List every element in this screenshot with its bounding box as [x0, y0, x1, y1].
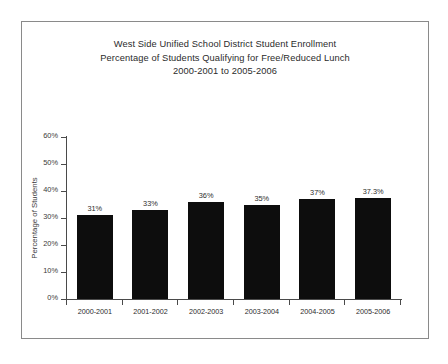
x-tick — [233, 299, 234, 305]
y-tick-label: 50% — [43, 158, 58, 167]
plot-area: 31%33%36%35%37%37.3% — [67, 137, 401, 299]
bar[interactable] — [77, 215, 113, 299]
bar[interactable] — [132, 210, 168, 299]
bar[interactable] — [355, 198, 391, 299]
y-tick-label: 10% — [43, 266, 58, 275]
y-axis-title: Percentage of Students — [30, 138, 42, 298]
bar-group: 36% — [178, 137, 234, 299]
y-tick-label: 60% — [43, 131, 58, 140]
bar-value-label: 37.3% — [363, 187, 384, 196]
x-category-label: 2005-2006 — [338, 307, 408, 316]
x-tick — [122, 299, 123, 305]
bar-value-label: 31% — [87, 204, 102, 213]
bar-group: 37% — [290, 137, 346, 299]
chart-title-block: West Side Unified School District Studen… — [22, 38, 428, 79]
x-tick — [289, 299, 290, 305]
x-tick — [344, 299, 345, 305]
x-tick — [66, 299, 67, 305]
chart-title-line-2: Percentage of Students Qualifying for Fr… — [22, 52, 428, 66]
y-tick-label: 20% — [43, 239, 58, 248]
bar-value-label: 35% — [254, 194, 269, 203]
bar-value-label: 33% — [143, 199, 158, 208]
bar-group: 35% — [234, 137, 290, 299]
bar[interactable] — [244, 205, 280, 300]
y-tick-label: 30% — [43, 212, 58, 221]
chart-title-line-3: 2000-2001 to 2005-2006 — [22, 65, 428, 79]
bar-group: 37.3% — [345, 137, 401, 299]
x-axis-line — [66, 299, 402, 300]
chart-title-line-1: West Side Unified School District Studen… — [22, 38, 428, 52]
bar-group: 33% — [123, 137, 179, 299]
bar[interactable] — [299, 199, 335, 299]
bar-value-label: 36% — [199, 191, 214, 200]
y-tick-label: 0% — [47, 293, 58, 302]
chart-frame: West Side Unified School District Studen… — [21, 21, 429, 339]
y-tick-label: 40% — [43, 185, 58, 194]
bar-value-label: 37% — [310, 188, 325, 197]
bar-group: 31% — [67, 137, 123, 299]
x-tick — [177, 299, 178, 305]
bar[interactable] — [188, 202, 224, 299]
x-tick — [400, 299, 401, 305]
